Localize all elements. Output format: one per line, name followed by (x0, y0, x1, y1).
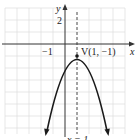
vertex-label: V(1, −1) (81, 46, 116, 58)
y-axis-arrow-icon (63, 4, 68, 10)
y-tick-label-2: 2 (57, 15, 62, 26)
vertex-point (75, 54, 79, 58)
parabola-curve (47, 60, 107, 132)
left-arrow-icon (44, 129, 49, 137)
y-axis-label: y (55, 3, 61, 14)
right-arrow-icon (105, 129, 110, 137)
x-axis-label: x (129, 46, 135, 57)
parabola-graph: y 2 −1 x V(1, −1) x = 1 (0, 0, 139, 140)
symmetry-label: x = 1 (66, 134, 88, 140)
x-tick-label-neg1: −1 (42, 46, 53, 57)
